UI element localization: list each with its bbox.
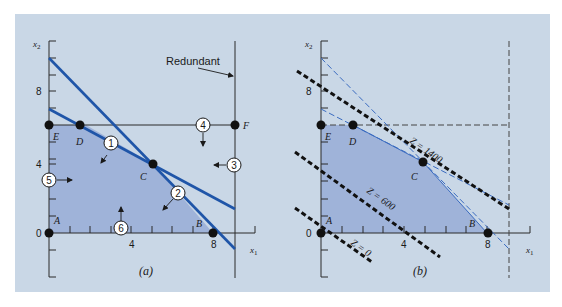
lp-graphical-solution-figure: Redundant 1 2 3 4 5 [0, 0, 562, 307]
panel-caption: (a) [139, 264, 153, 278]
x-tick-8: 8 [485, 239, 491, 250]
vertex-c [419, 158, 428, 167]
svg-text:4: 4 [200, 120, 206, 131]
vertex-d [76, 121, 85, 130]
vertex-label-b: B [469, 218, 475, 229]
y-tick-8: 8 [36, 86, 42, 97]
y-tick-0: 0 [36, 228, 42, 239]
vertex-label-a: A [53, 215, 61, 226]
vertex-label-e: E [52, 131, 59, 142]
vertex-a [317, 229, 326, 238]
vertex-c [149, 160, 158, 169]
vertex-d [349, 121, 358, 130]
panel-b: Z = 0 Z = 600 Z = 1400 A B C D E 0 8 4 8… [295, 39, 534, 278]
feasible-region [321, 125, 487, 233]
y-axis-label: x2 [304, 39, 313, 51]
vertex-e [45, 121, 54, 130]
vertex-b [484, 229, 493, 238]
panel-caption: (b) [413, 264, 427, 278]
svg-text:2: 2 [175, 188, 181, 199]
vertex-label-a: A [325, 215, 333, 226]
x-tick-8: 8 [211, 239, 217, 250]
x-axis-label: x1 [525, 245, 534, 257]
vertex-f [231, 121, 240, 130]
y-axis [49, 41, 56, 277]
y-tick-8: 8 [306, 86, 312, 97]
svg-text:1: 1 [108, 138, 114, 149]
x-tick-4: 4 [401, 239, 407, 250]
panel-a: Redundant 1 2 3 4 5 [32, 39, 258, 278]
y-tick-4: 4 [36, 159, 42, 170]
svg-text:5: 5 [46, 175, 52, 186]
constraint-marker-3: 3 [214, 158, 241, 172]
vertex-a [45, 229, 54, 238]
vertex-label-d: D [75, 136, 84, 147]
vertex-label-d: D [348, 136, 357, 147]
vertex-label-b: B [196, 218, 202, 229]
y-axis-label: x2 [32, 39, 41, 51]
svg-text:6: 6 [118, 223, 124, 234]
svg-text:3: 3 [231, 160, 237, 171]
vertex-label-f: F [242, 120, 250, 131]
vertex-label-c: C [411, 171, 418, 182]
y-tick-0: 0 [306, 228, 312, 239]
vertex-e [317, 121, 326, 130]
constraint-marker-4: 4 [196, 118, 210, 146]
vertex-label-c: C [140, 171, 147, 182]
redundant-label: Redundant [166, 55, 220, 67]
x-axis-label: x1 [249, 245, 258, 257]
redundant-arrow [198, 68, 233, 76]
x-tick-4: 4 [129, 239, 135, 250]
vertex-label-e: E [324, 131, 331, 142]
vertex-b [209, 229, 218, 238]
